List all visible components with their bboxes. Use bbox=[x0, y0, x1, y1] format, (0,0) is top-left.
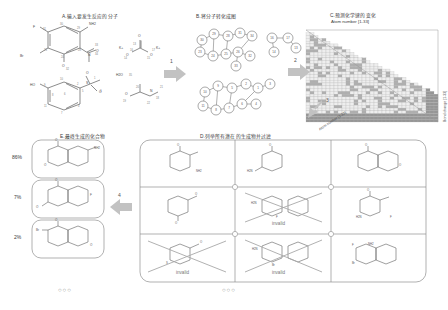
svg-text:O: O bbox=[177, 143, 180, 147]
svg-text:O: O bbox=[365, 143, 368, 147]
panel-d-ellipsis: ○○○ bbox=[222, 287, 236, 293]
svg-text:O: O bbox=[269, 143, 272, 147]
invalid-label-r3c2: invalid bbox=[272, 271, 285, 276]
figure-canvas: A.输入要发生反应的分子 B.将分子转化成图 C.预测化学键的变化 Atom n… bbox=[0, 0, 448, 310]
svg-text:NH2: NH2 bbox=[368, 242, 374, 246]
svg-text:F: F bbox=[352, 243, 354, 247]
svg-text:O: O bbox=[399, 163, 402, 167]
svg-text:O: O bbox=[175, 221, 178, 225]
invalid-label-r2c2: invalid bbox=[272, 222, 285, 227]
svg-text:O: O bbox=[195, 192, 198, 196]
svg-text:O: O bbox=[367, 188, 370, 192]
svg-text:O: O bbox=[200, 240, 203, 244]
svg-text:F: F bbox=[390, 215, 392, 219]
panel-d-grid: ONH2 OH2N OO OO H2NF OFH2N OS H2NBr FNH2… bbox=[0, 0, 448, 310]
svg-text:H2N: H2N bbox=[356, 215, 362, 219]
svg-text:Br: Br bbox=[272, 263, 275, 267]
svg-text:NH2: NH2 bbox=[196, 169, 202, 173]
svg-text:F: F bbox=[276, 215, 278, 219]
invalid-label-r3c1: invalid bbox=[176, 271, 189, 276]
svg-text:H2N: H2N bbox=[251, 201, 257, 205]
svg-text:H2N: H2N bbox=[247, 169, 253, 173]
svg-text:Br: Br bbox=[352, 261, 355, 265]
svg-text:H2N: H2N bbox=[252, 247, 258, 251]
